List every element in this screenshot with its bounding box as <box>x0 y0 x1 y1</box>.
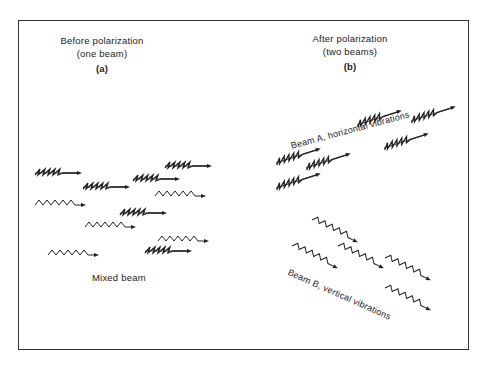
beam-b-rays <box>291 216 433 313</box>
rays-canvas <box>0 0 492 368</box>
beam-a-rays <box>275 103 457 190</box>
mixed-beam-rays <box>35 162 212 257</box>
